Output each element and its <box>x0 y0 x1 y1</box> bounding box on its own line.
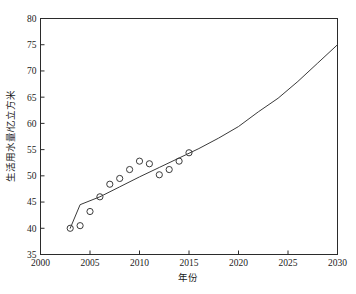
y-axis-title: 生活用水量/亿立方米 <box>5 90 16 183</box>
y-tick-label: 35 <box>27 250 37 260</box>
data-point-marker <box>146 161 152 167</box>
data-point-marker <box>87 208 93 214</box>
x-tick-label: 2025 <box>279 258 298 268</box>
x-tick-label: 2010 <box>130 258 149 268</box>
y-tick-label: 60 <box>27 119 37 129</box>
chart-figure: 2000200520102015202020252030 35404550556… <box>0 0 356 294</box>
data-point-marker <box>166 166 172 172</box>
chart-canvas: 2000200520102015202020252030 35404550556… <box>0 0 356 294</box>
data-point-marker <box>117 175 123 181</box>
data-point-marker <box>136 158 142 164</box>
x-tick-label: 2005 <box>81 258 100 268</box>
y-tick-label: 40 <box>27 224 37 234</box>
axis-frame <box>41 19 338 255</box>
data-point-marker <box>127 166 133 172</box>
scatter-points <box>67 150 192 232</box>
y-tick-label: 65 <box>27 93 37 103</box>
x-axis-tick-labels: 2000200520102015202020252030 <box>31 258 347 268</box>
data-point-marker <box>176 158 182 164</box>
trend-line <box>70 45 337 229</box>
data-point-marker <box>77 223 83 229</box>
x-tick-label: 2015 <box>180 258 199 268</box>
x-tick-label: 2030 <box>328 258 347 268</box>
y-tick-label: 80 <box>27 14 37 24</box>
x-tick-label: 2020 <box>229 258 248 268</box>
y-tick-label: 75 <box>27 40 37 50</box>
x-axis-title: 年份 <box>178 272 198 283</box>
x-axis-ticks <box>41 251 338 255</box>
data-point-marker <box>156 172 162 178</box>
y-axis-tick-labels: 35404550556065707580 <box>27 14 37 260</box>
y-tick-label: 45 <box>27 197 37 207</box>
y-tick-label: 50 <box>27 171 37 181</box>
data-point-marker <box>107 181 113 187</box>
y-tick-label: 55 <box>27 145 37 155</box>
y-axis-ticks <box>41 19 45 255</box>
y-tick-label: 70 <box>27 66 37 76</box>
trend-line-path <box>70 45 337 229</box>
